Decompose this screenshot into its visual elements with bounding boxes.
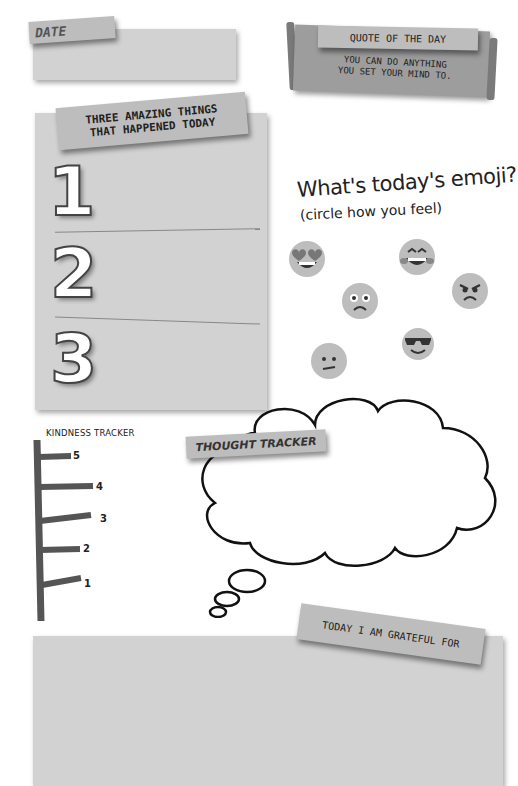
emoji-angry-icon[interactable] [452, 273, 488, 309]
kindness-tracker-title: KINDNESS TRACKER [46, 428, 135, 438]
emoji-title: What's today's emoji? [296, 163, 517, 202]
item-number-2: 2 [50, 240, 97, 308]
date-label: DATE [35, 23, 67, 40]
thought-tracker-label: THOUGHT TRACKER [195, 434, 317, 453]
kindness-level-3[interactable]: 3 [100, 513, 107, 524]
item-number-1: 1 [48, 158, 95, 226]
emoji-subtitle: (circle how you feel) [300, 200, 443, 223]
emoji-worried-icon[interactable] [342, 283, 378, 319]
item-field-1[interactable] [95, 160, 260, 222]
emoji-confused-icon[interactable] [311, 343, 347, 379]
grateful-field[interactable] [33, 636, 503, 786]
emoji-heart-eyes-icon[interactable] [289, 241, 325, 277]
item-number-3: 3 [50, 325, 97, 393]
kindness-level-4[interactable]: 4 [96, 481, 103, 492]
emoji-laughing-icon[interactable] [399, 239, 435, 275]
quote-header: QUOTE OF THE DAY [350, 32, 447, 45]
kindness-tracker-chart [30, 438, 120, 628]
grateful-label: TODAY I AM GRATEFUL FOR [322, 619, 461, 649]
kindness-level-1[interactable]: 1 [84, 578, 91, 589]
kindness-level-5[interactable]: 5 [73, 450, 80, 461]
item-field-3[interactable] [95, 328, 260, 400]
thought-cloud[interactable] [195, 393, 500, 618]
emoji-cool-sunglasses-icon[interactable] [402, 328, 434, 360]
quote-header-tape: QUOTE OF THE DAY [318, 26, 478, 51]
item-field-2[interactable] [95, 238, 260, 308]
kindness-level-2[interactable]: 2 [83, 543, 90, 554]
